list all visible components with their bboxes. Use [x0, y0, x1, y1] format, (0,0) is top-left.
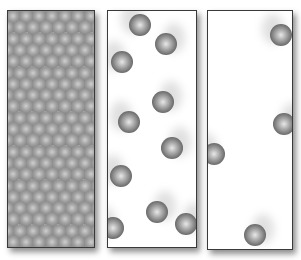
liquid-particle: [152, 91, 174, 113]
lattice-gap: [18, 247, 21, 248]
lattice-gap: [83, 247, 86, 248]
lattice-gap: [57, 247, 60, 248]
lattice-gap: [44, 247, 47, 248]
liquid-particle: [110, 165, 132, 187]
liquid-particle: [155, 33, 177, 55]
liquid-particle: [146, 201, 168, 223]
liquid-particle: [161, 137, 183, 159]
gas-particle: [207, 143, 225, 165]
liquid-particle: [107, 217, 124, 239]
liquid-panel: [107, 10, 197, 248]
gas-panel: [207, 10, 293, 250]
liquid-particle: [118, 111, 140, 133]
liquid-particle: [175, 213, 197, 235]
liquid-particle: [111, 51, 133, 73]
lattice-gap: [31, 247, 34, 248]
lattice-gap: [7, 247, 8, 248]
liquid-particle: [129, 14, 151, 36]
gas-particle: [270, 24, 292, 46]
gas-particle: [273, 113, 293, 135]
solid-panel: [7, 10, 95, 248]
lattice-gap: [70, 247, 73, 248]
gas-particle: [244, 224, 266, 246]
